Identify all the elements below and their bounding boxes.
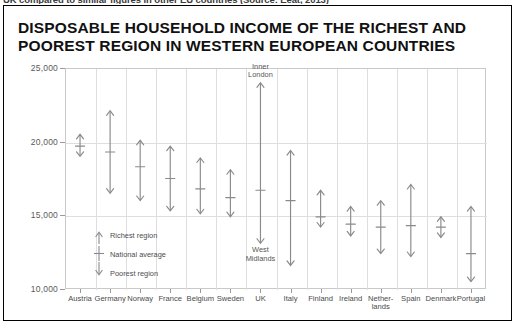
chart-title-line-1: DISPOSABLE HOUSEHOLD INCOME OF THE RICHE… — [18, 19, 496, 37]
x-tick-mark — [441, 289, 442, 293]
x-tick-mark — [351, 289, 352, 293]
legend-label-average: National average — [110, 250, 166, 259]
chart-title-line-2: POOREST REGION IN WESTERN EUROPEAN COUNT… — [18, 37, 496, 55]
x-tick-mark — [230, 289, 231, 293]
gridline-vertical — [397, 69, 398, 290]
gridline-vertical — [216, 69, 217, 290]
y-tick-label: 10,000 — [12, 284, 58, 294]
x-tick-mark — [321, 289, 322, 293]
x-tick-mark — [381, 289, 382, 293]
x-tick-mark — [110, 289, 111, 293]
x-tick-mark — [291, 289, 292, 293]
gridline-vertical — [307, 69, 308, 290]
y-axis: 10,00015,00020,00025,000 — [12, 68, 58, 289]
x-tick-mark — [471, 289, 472, 293]
gridline-vertical — [337, 69, 338, 290]
x-tick-mark — [80, 289, 81, 293]
y-tick-mark — [60, 68, 65, 69]
y-tick-label: 25,000 — [12, 63, 58, 73]
x-tick-mark — [140, 289, 141, 293]
y-tick-mark — [60, 215, 65, 216]
legend-label-richest: Richest region — [110, 231, 157, 240]
x-tick-mark — [260, 289, 261, 293]
figure-screenshot: UK compared to similar figures in other … — [0, 0, 517, 324]
x-tick-mark — [170, 289, 171, 293]
y-tick-mark — [60, 289, 65, 290]
annotation-uk-richest: Inner London — [245, 63, 275, 79]
y-tick-mark — [60, 142, 65, 143]
clipped-caption: UK compared to similar figures in other … — [3, 0, 503, 4]
gridline-vertical — [427, 69, 428, 290]
y-tick-label: 15,000 — [12, 210, 58, 220]
gridline-vertical — [277, 69, 278, 290]
annotation-uk-poorest: West Midlands — [245, 246, 275, 262]
y-tick-label: 20,000 — [12, 137, 58, 147]
x-axis-label-portugal: Portugal — [452, 295, 490, 303]
legend: Richest region National average Poorest … — [88, 229, 196, 279]
gridline-vertical — [367, 69, 368, 290]
legend-label-poorest: Poorest region — [110, 269, 158, 278]
chart-title: DISPOSABLE HOUSEHOLD INCOME OF THE RICHE… — [18, 19, 496, 55]
x-tick-mark — [411, 289, 412, 293]
x-tick-mark — [200, 289, 201, 293]
gridline-vertical — [457, 69, 458, 290]
